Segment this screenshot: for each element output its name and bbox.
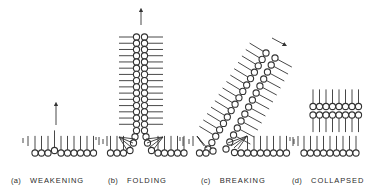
lipid-head <box>141 90 147 96</box>
lipid-tail <box>223 88 237 96</box>
lipid-head <box>141 115 147 121</box>
lipid-head <box>133 34 139 40</box>
lipid-tail <box>242 56 256 64</box>
lipid-head <box>263 50 269 56</box>
lipid-head <box>196 150 202 156</box>
lipid-head <box>251 150 257 156</box>
caption-label-b: FOLDING <box>127 176 167 185</box>
lipid-head <box>234 125 240 131</box>
lipid-head <box>120 150 126 156</box>
lipid-head <box>133 96 139 102</box>
lipid-head <box>213 133 219 139</box>
lipid-tail <box>255 101 269 109</box>
lipid-head <box>133 121 139 127</box>
lipid-head <box>320 150 326 156</box>
lipid-head <box>84 150 90 156</box>
lipid-head <box>133 84 139 90</box>
lipid-tail <box>246 50 260 58</box>
lipid-tail <box>278 59 292 67</box>
caption-label-a: WEAKENING <box>30 176 84 185</box>
lipid-head <box>355 103 361 109</box>
monolayer-collapse-diagram <box>0 0 383 187</box>
panel-collapsed-drawing <box>294 89 362 156</box>
lipid-tail <box>226 82 240 90</box>
panel-weakening-drawing <box>23 104 99 156</box>
lipid-head <box>342 103 348 109</box>
lipid-head <box>349 103 355 109</box>
lipid-head <box>310 112 316 118</box>
lipid-head <box>244 150 250 156</box>
lipid-head <box>38 150 44 156</box>
lipid-head <box>155 150 161 156</box>
lipid-tail <box>203 120 217 128</box>
caption-weakening: (a)WEAKENING <box>11 176 84 185</box>
lipid-head <box>133 46 139 52</box>
lipid-head <box>257 150 263 156</box>
lipid-head <box>141 121 147 127</box>
lipid-tail <box>230 75 244 83</box>
lipid-head <box>270 150 276 156</box>
lipid-head <box>301 150 307 156</box>
lipid-head <box>329 103 335 109</box>
panel-breaking-drawing <box>189 38 293 156</box>
lipid-head <box>223 146 229 152</box>
direction-arrow-icon <box>272 38 285 45</box>
lipid-head <box>316 112 322 118</box>
lipid-head <box>209 140 215 146</box>
lipid-head <box>114 150 120 156</box>
lipid-head <box>238 118 244 124</box>
lipid-head <box>336 103 342 109</box>
lipid-tail <box>244 122 258 130</box>
lipid-tail <box>259 94 273 102</box>
lipid-head <box>323 112 329 118</box>
lipid-head <box>133 65 139 71</box>
lipid-head <box>133 102 139 108</box>
lipid-head <box>272 55 278 61</box>
lipid-tail <box>248 115 262 123</box>
lipid-head <box>141 40 147 46</box>
lipid-head <box>90 150 96 156</box>
lipid-head <box>246 104 252 110</box>
lipid-head <box>336 112 342 118</box>
caption-label-c: BREAKING <box>220 176 266 185</box>
lipid-tail <box>250 43 264 51</box>
lipid-head <box>247 76 253 82</box>
lipid-head <box>130 140 136 146</box>
lipid-head <box>45 150 51 156</box>
lipid-tail <box>266 80 280 88</box>
lipid-head <box>224 114 230 120</box>
lipid-tail <box>263 87 277 95</box>
lipid-head <box>346 150 352 156</box>
lipid-head <box>161 150 167 156</box>
lipid-head <box>307 150 313 156</box>
lipid-head <box>64 150 70 156</box>
lipid-head <box>238 150 244 156</box>
lipid-head <box>58 150 64 156</box>
lipid-head <box>253 90 259 96</box>
lipid-tail <box>234 69 248 77</box>
lipid-head <box>316 103 322 109</box>
lipid-head <box>333 150 339 156</box>
lipid-head <box>244 82 250 88</box>
lipid-head <box>251 69 257 75</box>
lipid-head <box>259 56 265 62</box>
lipid-head <box>32 150 38 156</box>
lipid-head <box>181 150 187 156</box>
lipid-head <box>148 147 154 153</box>
lipid-head <box>141 127 147 133</box>
caption-breaking: (c)BREAKING <box>201 176 266 185</box>
lipid-head <box>141 109 147 115</box>
lipid-head <box>133 71 139 77</box>
lipid-head <box>141 53 147 59</box>
lipid-tail <box>207 114 221 122</box>
lipid-head <box>203 150 209 156</box>
lipid-head <box>353 150 359 156</box>
lipid-tail <box>274 66 288 74</box>
lipid-head <box>232 101 238 107</box>
caption-label-d: COLLAPSED <box>311 176 364 185</box>
lipid-head <box>141 71 147 77</box>
lipid-head <box>236 95 242 101</box>
lipid-head <box>230 132 236 138</box>
lipid-head <box>231 149 237 155</box>
lipid-head <box>133 115 139 121</box>
